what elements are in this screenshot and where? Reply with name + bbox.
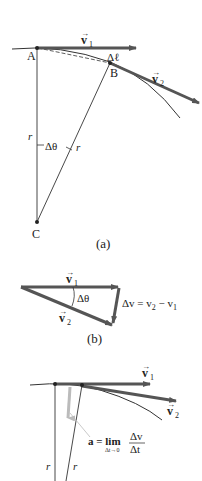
point-c-dot <box>35 220 39 224</box>
v1-arrow-accent-b: → <box>66 268 74 277</box>
v1-sub-b: 1 <box>74 279 78 288</box>
chord-dashed <box>38 48 110 63</box>
accel-leader <box>70 413 90 437</box>
delta-v-eq-minus: − v <box>156 297 174 309</box>
v1-arrow-accent: → <box>81 29 89 38</box>
accel-lhs: a = lim <box>88 435 121 447</box>
delta-v-eq-prefix: Δv = v <box>122 297 152 309</box>
point-c-label: C <box>32 227 40 241</box>
panel-a: A B C v 1 → v 2 → Δℓ r r Δθ (a) <box>12 29 199 251</box>
delta-v-eq-sub1: 1 <box>173 303 177 312</box>
point-a-label: A <box>27 49 36 63</box>
accel-num: Δv <box>130 430 143 442</box>
angle-label: Δθ <box>45 140 57 152</box>
point-1-dot-c <box>53 382 57 386</box>
arc-label: Δℓ <box>107 51 119 63</box>
v1-sub: 1 <box>89 40 93 49</box>
point-b-label: B <box>110 66 118 80</box>
radius-label-c-2: r <box>73 460 78 472</box>
panel-c: v 1 → v 2 → a = lim Δt→0 Δv Δt r r <box>30 362 179 481</box>
angle-label-b: Δθ <box>77 292 89 304</box>
delta-v-equation: Δv = v2 − v1 <box>122 297 177 312</box>
v1-sub-c: 1 <box>150 373 154 382</box>
accel-den: Δt <box>130 443 140 455</box>
panel-b: v 1 → Δθ v 2 → Δv = v2 − v1 (b) <box>21 268 177 346</box>
v2-vector-c <box>82 386 176 401</box>
radius-label-2: r <box>76 141 81 153</box>
accel-limit: Δt→0 <box>105 447 120 453</box>
angle-arc-b <box>72 287 74 306</box>
point-2-dot-c <box>80 383 84 387</box>
caption-a: (a) <box>96 236 110 251</box>
v2-arrow-accent-b: → <box>59 307 67 316</box>
v2-arrow-accent-c: → <box>167 400 175 409</box>
radius-label-c-1: r <box>46 460 51 472</box>
accel-vector <box>68 387 70 418</box>
caption-b: (b) <box>87 331 102 346</box>
radius-label-1: r <box>28 130 33 142</box>
delta-v-vector <box>113 288 119 323</box>
circular-motion-diagram: A B C v 1 → v 2 → Δℓ r r Δθ (a) v 1 → Δθ… <box>0 0 202 481</box>
v2-sub-b: 2 <box>67 318 71 327</box>
v1-arrow-accent-c: → <box>142 362 150 371</box>
v2-sub: 2 <box>160 79 164 88</box>
v2-arrow-accent: → <box>152 68 160 77</box>
v2-sub-c: 2 <box>175 411 179 420</box>
